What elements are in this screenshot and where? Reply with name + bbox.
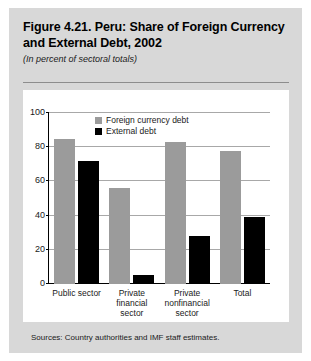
bar: [244, 217, 265, 284]
x-axis-category-label: Privatenonfinancialsector: [160, 288, 215, 318]
source-note: Sources: Country authorities and IMF sta…: [31, 333, 293, 343]
header-divider: [23, 82, 289, 83]
bar-group: [49, 113, 104, 284]
y-axis-tick-label: 40: [35, 210, 45, 219]
y-axis-tick-label: 80: [35, 142, 45, 151]
x-axis-category-labels: Public sectorPrivatefinancialsectorPriva…: [49, 288, 270, 318]
bar: [189, 236, 210, 284]
y-axis-tick-label: 20: [35, 244, 45, 253]
chart-card: Foreign currency debt External debt 0204…: [23, 90, 289, 322]
y-axis-tick-label: 60: [35, 176, 45, 185]
bar-group: [160, 113, 215, 284]
plot-area: 020406080100: [49, 113, 270, 284]
bar: [54, 139, 75, 284]
x-axis-category-label: Public sector: [49, 288, 104, 318]
y-axis-tick-label: 100: [30, 108, 45, 117]
figure-subtitle: (In percent of sectoral totals): [23, 54, 289, 65]
bar-groups: [49, 113, 270, 284]
figure-panel: Figure 4.21. Peru: Share of Foreign Curr…: [9, 8, 302, 353]
bar: [220, 151, 241, 284]
bar-group: [215, 113, 270, 284]
bar: [109, 188, 130, 284]
figure-header: Figure 4.21. Peru: Share of Foreign Curr…: [23, 20, 289, 65]
y-axis-tick-label: 0: [40, 279, 45, 288]
x-axis-category-label: Total: [215, 288, 270, 318]
bar-group: [104, 113, 159, 284]
bar: [165, 142, 186, 284]
bar: [78, 161, 99, 284]
x-axis-category-label: Privatefinancialsector: [104, 288, 159, 318]
page-title: Figure 4.21. Peru: Share of Foreign Curr…: [23, 20, 289, 51]
bar: [133, 275, 154, 284]
